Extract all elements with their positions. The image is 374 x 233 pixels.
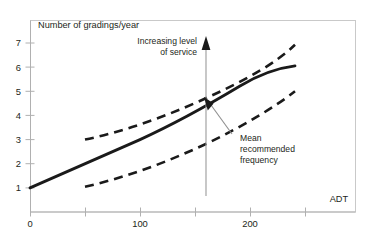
mean-recommended-frequency-line-3: frequency	[240, 155, 278, 165]
y-tick-label-7: 7	[16, 37, 21, 48]
increasing-level-of-service-line-1: Increasing level	[137, 36, 197, 46]
y-tick-label-4: 4	[16, 110, 21, 121]
y-axis-title: Number of gradings/year	[38, 20, 139, 30]
mean-recommended-frequency-line-1: Mean	[240, 133, 262, 143]
mean-recommended-frequency-curve	[30, 66, 295, 188]
mean-frequency-callout-leader	[204, 97, 232, 134]
x-tick-label-0: 0	[27, 218, 32, 229]
chart-figure: 1 2 3 4 5 6 7 0 100 200 Number of gradin…	[0, 0, 374, 233]
increasing-level-of-service-arrow	[202, 36, 211, 196]
x-tick-label-200: 200	[242, 218, 258, 229]
y-tick-label-1: 1	[16, 182, 21, 193]
mean-recommended-frequency-line-2: recommended	[240, 144, 295, 154]
upper-bound-dashed-curve	[85, 45, 295, 140]
gradings-per-year-line-chart: 1 2 3 4 5 6 7 0 100 200 Number of gradin…	[0, 0, 374, 233]
y-tick-label-5: 5	[16, 86, 21, 97]
x-axis-title: ADT	[330, 194, 349, 204]
x-tick-label-100: 100	[132, 218, 148, 229]
y-tick-label-6: 6	[16, 62, 21, 73]
y-tick-label-2: 2	[16, 158, 21, 169]
y-tick-label-3: 3	[16, 134, 21, 145]
increasing-level-of-service-line-2: of service	[160, 47, 197, 57]
